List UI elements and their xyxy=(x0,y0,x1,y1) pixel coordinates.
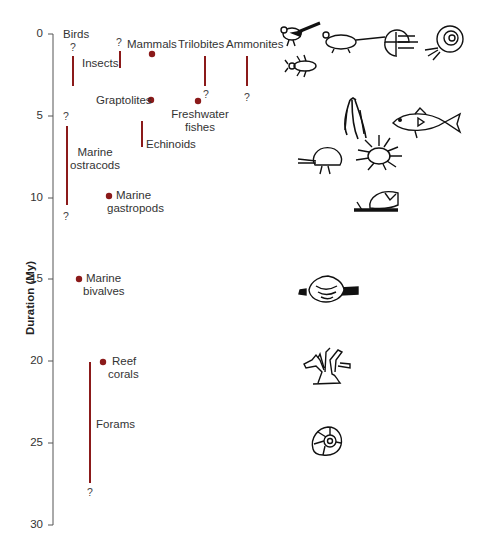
label-marine-bivalves: Marine bivalves xyxy=(83,272,125,298)
label-freshwater-line2: fishes xyxy=(170,121,230,134)
label-gastropods-line2: gastropods xyxy=(107,202,164,215)
label-reef-corals: Reef corals xyxy=(108,355,139,381)
ytick-0: 0 xyxy=(17,27,43,39)
ytick-10: 10 xyxy=(17,191,43,203)
bivalves-point xyxy=(76,276,82,282)
label-marine-ostracods: Marine ostracods xyxy=(70,146,120,172)
trilobite-icon xyxy=(385,30,418,56)
ytick-20: 20 xyxy=(17,354,43,366)
ostracods-uncertain-top: ? xyxy=(63,110,69,122)
ostracods-uncertain-bottom: ? xyxy=(63,210,69,222)
mammals-point xyxy=(149,51,155,57)
duration-chart: 0 5 10 15 20 25 30 Duration (My) Birds ?… xyxy=(0,0,486,551)
ostracod-icon xyxy=(298,148,342,174)
coral-icon xyxy=(304,348,350,384)
ytick-30: 30 xyxy=(17,518,43,530)
foram-icon xyxy=(312,427,341,455)
fish-icon xyxy=(393,108,460,138)
label-mammals: Mammals xyxy=(127,38,177,51)
mouse-icon xyxy=(323,32,385,53)
bird-icon xyxy=(281,23,320,46)
label-bivalves-line1: Marine xyxy=(83,272,125,285)
label-ammonites: Ammonites xyxy=(226,38,284,51)
birds-uncertain: ? xyxy=(70,41,76,53)
freshwater-fishes-point xyxy=(195,98,201,104)
y-axis-label: Duration (My) xyxy=(24,261,36,335)
label-bivalves-line2: bivalves xyxy=(83,285,125,298)
forams-uncertain: ? xyxy=(87,486,93,498)
ytick-25: 25 xyxy=(17,436,43,448)
label-freshwater-fishes: Freshwater fishes xyxy=(170,108,230,134)
axis-and-marks xyxy=(0,0,486,551)
label-marine-gastropods: Marine gastropods xyxy=(107,189,164,215)
sea-urchin-icon xyxy=(356,135,402,170)
illustrations xyxy=(281,23,463,455)
label-trilobites: Trilobites xyxy=(178,38,224,51)
y-axis xyxy=(48,34,53,525)
label-freshwater-line1: Freshwater xyxy=(170,108,230,121)
ammonite-icon xyxy=(425,26,463,60)
label-echinoids: Echinoids xyxy=(146,138,196,151)
label-ostracods-line1: Marine xyxy=(70,146,120,159)
insects-uncertain: ? xyxy=(116,36,122,48)
ammonites-uncertain: ? xyxy=(244,91,250,103)
label-insects: Insects xyxy=(82,57,118,70)
label-forams: Forams xyxy=(96,418,135,431)
label-ostracods-line2: ostracods xyxy=(70,159,120,172)
label-graptolites: Graptolites xyxy=(96,94,152,107)
beetle-icon xyxy=(285,55,316,77)
clam-icon xyxy=(299,276,358,302)
label-birds: Birds xyxy=(63,28,89,41)
corals-point xyxy=(100,359,106,365)
graptolite-icon xyxy=(345,98,366,139)
label-corals-line1: Reef xyxy=(108,355,139,368)
ytick-5: 5 xyxy=(17,109,43,121)
snail-icon xyxy=(354,192,398,210)
label-gastropods-line1: Marine xyxy=(107,189,164,202)
label-corals-line2: corals xyxy=(108,368,139,381)
trilobites-uncertain: ? xyxy=(203,88,209,100)
